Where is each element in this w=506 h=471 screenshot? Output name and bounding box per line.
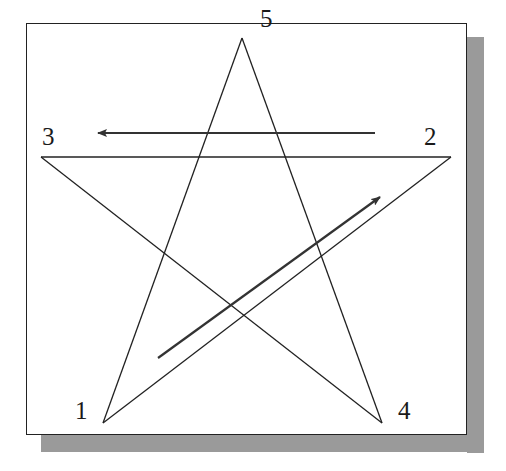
star-edges: [41, 38, 451, 423]
vertex-label-3: 3: [42, 124, 55, 149]
direction-arrows: [98, 133, 380, 358]
star-edge-4-5: [242, 38, 382, 423]
vertex-label-5: 5: [260, 6, 273, 31]
star-edge-5-1: [103, 38, 242, 423]
star-edge-1-2: [103, 157, 451, 423]
star-edge-3-4: [41, 157, 382, 423]
direction-arrow-1-to-2: [158, 197, 380, 358]
vertex-label-2: 2: [424, 124, 437, 149]
vertex-label-4: 4: [398, 398, 411, 423]
vertex-label-1: 1: [75, 398, 88, 423]
